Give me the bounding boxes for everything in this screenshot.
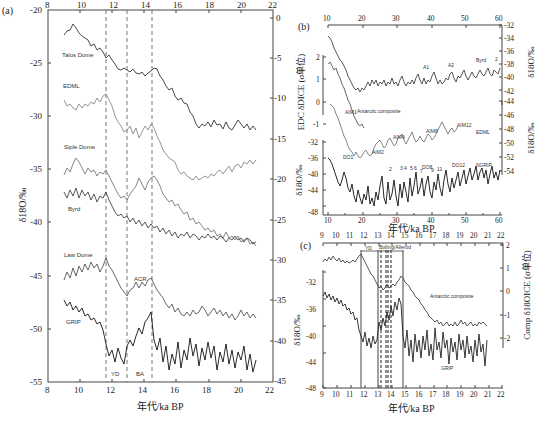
svg-text:14: 14 [387,390,395,399]
antarctic-composite-label-b: Antarctic composite [357,108,401,114]
svg-text:15: 15 [401,390,409,399]
svg-text:11: 11 [346,390,353,399]
edml-label: EDML [63,83,80,89]
panel-c-right-y-ticks: 2 1 0 -1 -2 [504,241,510,343]
panel-c-event-lines-solid [361,250,403,388]
panel-a-right-y-ticks: 0 -5 -10 -15 -20 -25 -30 -35 -40 -45 [274,13,286,386]
panel-b-right-mid-y-ticks: -44 -46 -48 -50 -52 -54 [504,97,514,176]
panel-a-y-label: δ18O/‰ [17,188,28,223]
svg-text:-40: -40 [274,336,286,346]
svg-text:-32: -32 [308,138,318,147]
svg-text:20: 20 [470,231,478,240]
panel-a-frame [48,10,273,382]
svg-text:-48: -48 [306,384,316,393]
panel-b-x-label: 年代/ka BP [388,222,435,234]
svg-text:-35: -35 [30,164,42,174]
svg-text:12: 12 [360,390,368,399]
panel-a-bottom-x-ticks: 8 10 12 14 16 18 20 22 [45,385,274,395]
panel-b-right-top-y-ticks: -32 -34 -36 -38 -40 -42 [504,21,514,96]
panel-c-left-label: δ18O/‰ [292,314,302,345]
svg-text:5: 5 [410,165,413,171]
antarctic-composite-series-b [328,62,364,128]
svg-text:20: 20 [470,390,478,399]
panel-b-left-top-y-ticks: 2 1 0 -1 [313,53,320,129]
svg-text:20: 20 [358,216,366,225]
panel-a-top-x-ticks: 8 10 12 14 16 18 20 22 [45,0,277,10]
svg-text:-42: -42 [504,87,514,96]
yd-annotation: YD [111,371,120,377]
svg-text:21: 21 [484,390,492,399]
a2-label: A2 [448,62,454,68]
svg-text:18: 18 [442,231,450,240]
svg-text:19: 19 [456,231,464,240]
byrd-series [64,188,256,244]
panel-c-x-label: 年代/ka BP [388,402,435,414]
panel-b-left-bottom-label: δ18O/‰ [294,164,304,195]
svg-text:16: 16 [173,0,183,10]
svg-text:11: 11 [437,166,442,172]
svg-text:22: 22 [265,385,274,395]
byrd-label-b: Byrd [476,57,487,63]
svg-text:14: 14 [387,231,395,240]
svg-text:-32: -32 [306,278,316,287]
do1-label: DO1 [343,154,354,160]
svg-text:60: 60 [495,216,503,225]
svg-text:-20: -20 [274,174,286,184]
svg-text:-20: -20 [30,5,42,15]
grip-label-c: GRIP [441,365,454,371]
svg-text:8: 8 [45,385,50,395]
svg-text:50: 50 [461,14,469,23]
svg-text:10: 10 [324,216,332,225]
svg-text:14: 14 [138,385,148,395]
law-dome-label: Law Dome [64,252,93,258]
svg-text:10: 10 [323,14,331,23]
svg-text:2: 2 [506,241,510,250]
panel-a: (a) 8 10 12 14 16 18 20 22 8 10 12 14 16… [2,0,286,412]
svg-text:-34: -34 [504,34,514,43]
panel-c-left-y-ticks: -32 -36 -40 -44 -48 [306,278,316,393]
svg-text:30: 30 [392,14,400,23]
svg-text:-44: -44 [308,186,318,195]
panel-b: (b) 10 20 30 40 50 60 -32 -34 -36 -38 -4… [294,14,536,234]
siple-dome-label: Siple Dome [64,144,96,150]
edml-series [64,94,256,180]
svg-text:20: 20 [234,385,244,395]
antarctic-composite-series-c [323,254,487,326]
grip-series-c [323,292,487,366]
svg-text:18: 18 [205,0,215,10]
svg-text:9: 9 [431,167,434,173]
event-2-label: 2 [495,56,498,62]
svg-text:-30: -30 [274,255,286,265]
aim4-label: AIM4 [393,134,405,140]
svg-text:18: 18 [442,390,450,399]
panel-c: (c) 9 10 11 12 13 14 15 16 17 18 19 20 2… [292,231,532,414]
svg-text:-35: -35 [274,295,286,305]
svg-text:10: 10 [74,385,84,395]
svg-text:9: 9 [320,390,324,399]
svg-text:13: 13 [374,231,382,240]
svg-text:14: 14 [141,0,151,10]
panel-a-left-y-ticks: -20 -25 -30 -35 -40 -45 -50 -55 [30,5,42,387]
aim2-label: AIM2 [372,149,384,155]
panel-b-right-mid-label: δ18O/‰ [526,122,536,153]
svg-text:8: 8 [45,0,50,10]
svg-text:-1: -1 [313,120,319,129]
svg-text:9: 9 [320,231,324,240]
svg-text:10: 10 [332,231,340,240]
svg-text:-45: -45 [274,376,286,386]
svg-text:22: 22 [497,231,505,240]
svg-text:-46: -46 [504,111,514,120]
panel-a-label: (a) [2,5,13,17]
edml-label-b: EDML [476,129,490,135]
svg-text:-40: -40 [306,332,316,341]
panel-b-right-top-label: δ18O/‰ [526,46,536,77]
svg-text:-40: -40 [504,73,514,82]
svg-text:-15: -15 [274,134,286,144]
svg-text:16: 16 [170,385,180,395]
svg-text:-48: -48 [308,208,318,217]
svg-text:-50: -50 [504,139,514,148]
svg-text:-2: -2 [504,334,510,343]
svg-text:-5: -5 [274,53,282,63]
svg-text:40: 40 [427,14,435,23]
svg-text:-25: -25 [30,58,42,68]
